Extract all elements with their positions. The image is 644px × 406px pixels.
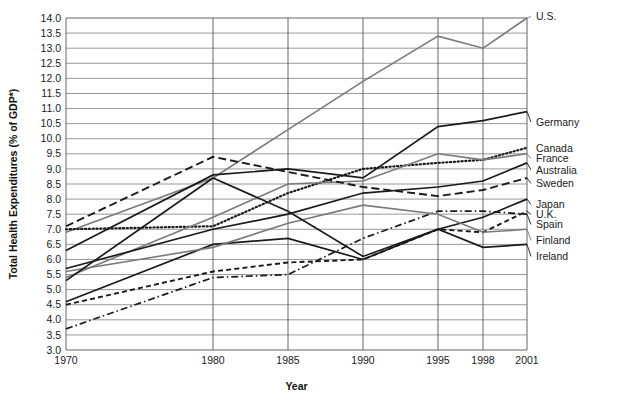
series-label-leader-spain — [527, 214, 531, 224]
x-axis-title: Year — [285, 380, 307, 392]
y-axis-tick-label: 13.5 — [41, 27, 62, 39]
y-axis-tick-label: 6.0 — [46, 253, 61, 265]
series-line-u-s — [66, 18, 527, 232]
x-axis-tick-label: 1990 — [351, 354, 375, 366]
series-label-france: France — [536, 152, 569, 164]
y-axis-tick-label: 10.5 — [41, 117, 62, 129]
series-label-sweden: Sweden — [536, 177, 574, 189]
chart-canvas: 3.03.54.04.55.05.56.06.57.07.58.08.59.09… — [0, 0, 644, 406]
series-label-finland: Finland — [536, 234, 571, 246]
y-axis-tick-label: 13.0 — [41, 42, 62, 54]
y-axis-tick-label: 10.0 — [41, 132, 62, 144]
series-label-leader-sweden — [527, 178, 531, 183]
x-axis-tick-label: 1985 — [276, 354, 300, 366]
series-label-australia: Australia — [536, 164, 577, 176]
series-label-leader-japan — [527, 199, 531, 204]
y-axis-tick-label: 5.5 — [46, 268, 61, 280]
series-label-leader-u-k — [527, 211, 531, 214]
y-axis-tick-label: 11.0 — [41, 102, 61, 114]
y-axis-tick-label: 11.5 — [41, 87, 61, 99]
y-axis-title: Total Health Expenditures (% of GDP*) — [7, 89, 19, 280]
y-axis-tick-label: 14.0 — [41, 12, 62, 24]
y-axis-tick-label: 3.5 — [46, 329, 61, 341]
x-axis-tick-label: 1998 — [471, 354, 495, 366]
x-axis-tick-label: 1970 — [54, 354, 78, 366]
series-label-leader-u-s — [527, 16, 531, 18]
series-labels: U.S.GermanyCanadaFranceAustraliaSwedenJa… — [527, 10, 580, 262]
series-label-leader-finland — [527, 229, 531, 240]
y-axis-tick-label: 7.5 — [46, 208, 61, 220]
y-axis-tick-label: 12.0 — [41, 72, 62, 84]
series-label-leader-france — [527, 154, 531, 159]
y-axis-tick-label: 8.0 — [46, 193, 61, 205]
x-axis-tick-label: 1995 — [426, 354, 450, 366]
series-label-ireland: Ireland — [536, 250, 568, 262]
series-label-leader-australia — [527, 163, 531, 170]
y-axis-tick-label: 9.5 — [46, 147, 61, 159]
y-axis-tick-label: 4.5 — [46, 298, 61, 310]
x-axis-tick-label: 2001 — [515, 354, 539, 366]
y-axis-tick-label: 7.0 — [46, 223, 61, 235]
y-axis-tick-label: 9.0 — [46, 163, 61, 175]
series-label-germany: Germany — [536, 116, 580, 128]
y-axis-tick-label: 4.0 — [46, 313, 61, 325]
series-group — [66, 18, 527, 329]
x-axis-tick-label: 1980 — [201, 354, 225, 366]
y-axis-tick-label: 12.5 — [41, 57, 62, 69]
series-line-u-k — [66, 211, 527, 305]
y-gridlines: 3.03.54.04.55.05.56.06.57.07.58.08.59.09… — [41, 12, 527, 356]
health-expenditure-line-chart: 3.03.54.04.55.05.56.06.57.07.58.08.59.09… — [0, 0, 644, 406]
y-axis-tick-label: 8.5 — [46, 178, 61, 190]
series-label-spain: Spain — [536, 218, 563, 230]
y-axis-tick-label: 5.0 — [46, 283, 61, 295]
x-gridlines: 1970198019851990199519982001 — [54, 18, 539, 366]
series-label-leader-ireland — [527, 244, 531, 256]
y-axis-tick-label: 6.5 — [46, 238, 61, 250]
series-label-u-s: U.S. — [536, 10, 556, 22]
series-label-leader-germany — [527, 112, 531, 123]
